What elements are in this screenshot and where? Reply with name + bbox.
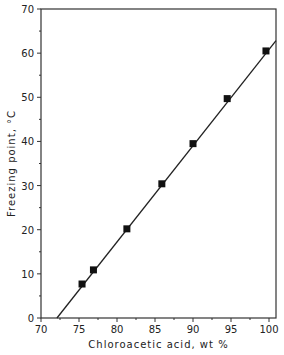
y-tick-label: 10	[21, 269, 34, 280]
plot-frame	[41, 9, 276, 318]
data-point	[262, 47, 269, 54]
y-tick-label: 60	[21, 48, 34, 59]
data-point	[123, 225, 130, 232]
y-tick-label: 30	[21, 181, 34, 192]
fit-line	[57, 41, 276, 318]
x-tick-label: 85	[149, 324, 162, 335]
x-axis-title: Chloroacetic acid, wt %	[88, 339, 228, 350]
data-point	[158, 180, 165, 187]
x-tick-label: 75	[73, 324, 86, 335]
data-point	[190, 140, 197, 147]
x-tick-label: 80	[111, 324, 124, 335]
freezing-point-chart: 010203040506070707580859095100Chloroacet…	[0, 0, 284, 355]
y-tick-label: 70	[21, 4, 34, 15]
data-point	[224, 95, 231, 102]
x-tick-label: 70	[35, 324, 48, 335]
y-tick-label: 40	[21, 136, 34, 147]
y-tick-label: 50	[21, 92, 34, 103]
x-tick-label: 90	[187, 324, 200, 335]
x-tick-label: 100	[259, 324, 278, 335]
x-tick-label: 95	[225, 324, 238, 335]
y-tick-label: 0	[28, 313, 34, 324]
data-point	[90, 266, 97, 273]
data-point	[79, 281, 86, 288]
y-axis-title: Freezing point, °C	[6, 110, 17, 217]
y-tick-label: 20	[21, 225, 34, 236]
